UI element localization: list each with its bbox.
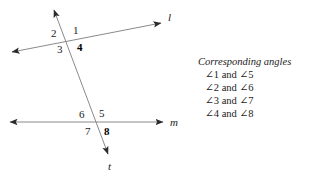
legend-pair-list: ∠1 and ∠5∠2 and ∠6∠3 and ∠7∠4 and ∠8 (198, 68, 310, 120)
legend-pair-item: ∠1 and ∠5 (205, 68, 310, 81)
angle-label-1: 1 (73, 25, 79, 36)
angle-label-8: 8 (104, 126, 110, 137)
legend-title: Corresponding angles (198, 55, 310, 68)
angle-label-5: 5 (99, 108, 105, 119)
transversal-t-label: t (108, 161, 111, 172)
line-l-stroke (12, 23, 161, 52)
angle-label-4: 4 (77, 42, 83, 53)
corresponding-angles-legend: Corresponding angles ∠1 and ∠5∠2 and ∠6∠… (198, 55, 310, 120)
legend-pair-item: ∠3 and ∠7 (205, 94, 310, 107)
legend-pair-item: ∠2 and ∠6 (205, 81, 310, 94)
angle-label-3: 3 (57, 44, 63, 55)
angle-label-7: 7 (85, 126, 91, 137)
legend-pair-item: ∠4 and ∠8 (205, 107, 310, 120)
line-l-label: l (168, 12, 171, 23)
angle-label-2: 2 (51, 28, 57, 39)
transversal-t-stroke (54, 10, 108, 154)
line-m-label: m (170, 117, 178, 128)
angle-label-6: 6 (79, 109, 85, 120)
geometry-figure-page: l m t 12345678 Corresponding angles ∠1 a… (0, 0, 313, 176)
